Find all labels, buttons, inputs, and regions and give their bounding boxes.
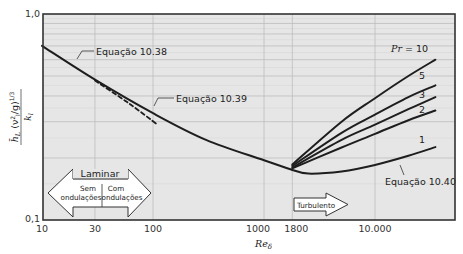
com-ondulacoes-line2: ondulações [102,193,143,202]
pr-3-label: 3 [419,89,425,100]
svg-text:kl: kl [22,113,35,121]
sem-ondulacoes-line2: ondulações [61,193,102,202]
eq1038-label: Equação 10.38 [96,46,167,57]
pr-2-label: 2 [419,104,425,115]
pr-5-label: 5 [419,70,425,81]
x-tick-1800: 1800 [284,223,308,234]
svg-text:h̄L (ν2l/g)1/3: h̄L (ν2l/g)1/3 [8,92,22,143]
chart-svg: Laminar Sem ondulações Com ondulações Tu… [0,0,463,254]
laminar-label: Laminar [81,168,120,179]
x-tick-10000: 10.000 [358,223,391,234]
pr-10-label: Pr = 10 [390,43,428,54]
x-tick-1000: 1000 [246,223,270,234]
x-tick-30: 30 [89,223,101,234]
pr-1-label: 1 [419,134,425,145]
x-axis-label: Reδ [254,238,272,251]
y-axis-label: h̄L (ν2l/g)1/3 kl [8,89,35,145]
chart-figure: Laminar Sem ondulações Com ondulações Tu… [0,0,463,254]
x-tick-10: 10 [36,223,48,234]
x-tick-100: 100 [144,223,162,234]
y-tick-top: 1,0 [25,8,40,19]
sem-ondulacoes-line1: Sem [80,184,96,193]
x-tick-labels: 10301001000180010.000 [36,223,392,234]
eq1040-label: Equação 10.40 [385,176,456,187]
turbulento-label: Turbulento [296,201,335,210]
com-ondulacoes-line1: Com [108,184,124,193]
eq1039-label: Equação 10.39 [176,93,247,104]
